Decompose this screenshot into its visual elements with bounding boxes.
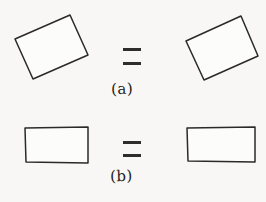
shape-tilted-rectangle-left (15, 15, 88, 79)
panel-b-group (25, 127, 255, 163)
shape-tilted-rectangle-right (186, 16, 258, 80)
equals-sign-a (123, 48, 141, 65)
figure-canvas: (a) (b) (0, 0, 266, 202)
panel-a-group (15, 15, 258, 80)
equals-bar-lower (123, 154, 141, 157)
panel-label-b: (b) (110, 167, 133, 186)
figure-drawing (0, 0, 266, 202)
shape-axis-aligned-rectangle-left (25, 127, 88, 163)
equals-sign-b (123, 141, 141, 157)
panel-label-a: (a) (111, 80, 134, 99)
equals-bar-upper (123, 48, 141, 51)
equals-bar-upper (123, 141, 141, 144)
equals-bar-lower (123, 62, 141, 65)
shape-axis-aligned-rectangle-right (187, 127, 255, 162)
